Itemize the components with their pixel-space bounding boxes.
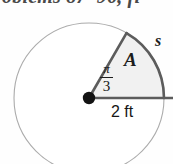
circle-sector-figure: roblems 87–96, fi A s 2 ft π 3 [0,0,173,164]
area-label: A [124,50,137,69]
geometry-drawing [0,0,173,164]
angle-numerator: π [102,62,111,76]
center-point-dot [83,92,95,104]
arc-length-label: s [155,33,161,49]
angle-denominator: 3 [102,79,112,95]
radius-label: 2 ft [111,104,133,120]
central-angle-label: π 3 [100,62,113,95]
